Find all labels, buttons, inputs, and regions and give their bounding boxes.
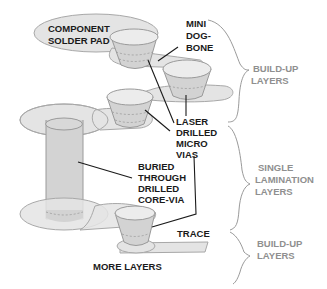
label-component-solder-pad: COMPONENT SOLDER PAD (48, 23, 112, 46)
group-label-single-lamination: SINGLE LAMINATION LAYERS (255, 162, 317, 197)
label-buried-core-via: BURIED THROUGH DRILLED CORE-VIA (138, 161, 189, 205)
label-more-layers: MORE LAYERS (93, 261, 162, 272)
brace-top-build-up (208, 20, 249, 122)
group-label-top-build-up: BUILD-UP LAYERS (251, 63, 301, 86)
brace-single-lamination (228, 126, 250, 230)
micro-via-bottom (115, 206, 155, 246)
group-label-bottom-build-up: BUILD-UP LAYERS (257, 238, 305, 261)
label-mini-dogbone: MINI DOG- BONE (186, 18, 213, 53)
label-laser-drilled-micro-vias: LASER DRILLED MICRO VIAS (176, 116, 220, 160)
brace-bottom-build-up (230, 232, 250, 284)
label-trace: TRACE (177, 228, 210, 239)
pcb-via-stack-diagram: COMPONENT SOLDER PAD MINI DOG- BONE LASE… (0, 0, 327, 289)
